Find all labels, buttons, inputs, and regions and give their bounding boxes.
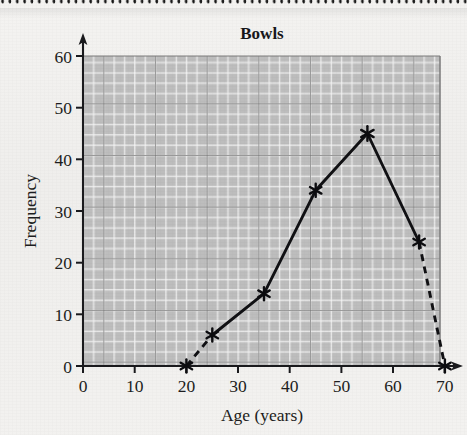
y-axis-tick-labels: 0 10 20 30 40 50 60 <box>55 47 73 377</box>
chart-title: Bowls <box>240 24 284 43</box>
y-tick-label-60: 60 <box>55 47 73 67</box>
x-tick-label-20: 20 <box>178 376 196 396</box>
y-tick-label-50: 50 <box>55 98 73 118</box>
chart-svg: 0 10 20 30 40 50 60 0 10 <box>0 0 467 435</box>
y-tick-label-0: 0 <box>63 357 72 377</box>
x-tick-label-0: 0 <box>79 376 88 396</box>
x-axis-tick-labels: 0 10 20 30 40 50 60 70 <box>79 376 454 396</box>
y-tick-label-20: 20 <box>55 253 73 273</box>
x-tick-label-30: 30 <box>229 376 247 396</box>
x-tick-label-40: 40 <box>281 376 299 396</box>
y-tick-label-30: 30 <box>55 202 73 222</box>
x-tick-label-10: 10 <box>126 376 144 396</box>
y-axis-title: Frequency <box>20 174 40 248</box>
x-tick-label-60: 60 <box>384 376 402 396</box>
x-axis-title: Age (years) <box>221 405 303 425</box>
frequency-polygon-chart: 0 10 20 30 40 50 60 0 10 <box>0 0 467 435</box>
x-tick-label-70: 70 <box>436 376 454 396</box>
y-tick-label-10: 10 <box>55 305 73 325</box>
x-tick-label-50: 50 <box>333 376 351 396</box>
scanned-page: 0 10 20 30 40 50 60 0 10 <box>0 0 467 435</box>
plot-grid-area <box>83 56 440 366</box>
y-tick-label-40: 40 <box>55 150 73 170</box>
